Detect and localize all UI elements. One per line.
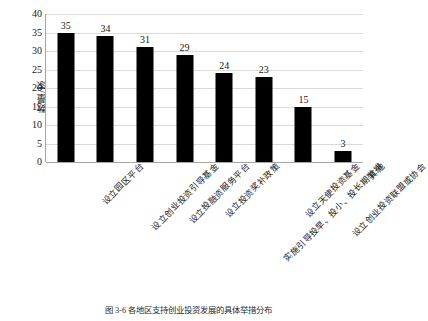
y-tick-label-30: 30 [32, 46, 42, 56]
chart-plot-area: 数量/家 40 35 30 25 20 15 10 5 0 [34, 10, 364, 175]
bar-value-label: 23 [259, 65, 269, 75]
bar-slot: 24 [204, 14, 244, 162]
bar-slot: 23 [244, 14, 284, 162]
bar[interactable] [136, 47, 153, 162]
bar[interactable] [334, 151, 351, 162]
bar-value-label: 29 [180, 43, 190, 53]
y-tick-label-20: 20 [32, 83, 42, 93]
bar-value-label: 34 [100, 24, 110, 34]
bar-value-label: 15 [298, 95, 308, 105]
bar-value-label: 31 [140, 35, 150, 45]
bar-slot: 29 [165, 14, 205, 162]
figure-caption: 图 3-6 各地区支持创业投资发展的具体举措分布 [0, 306, 377, 316]
y-tick-label-10: 10 [32, 120, 42, 130]
bar-slot: 15 [284, 14, 324, 162]
y-tick-label-15: 15 [32, 102, 42, 112]
bar[interactable] [255, 77, 272, 162]
bar-value-label: 35 [61, 21, 71, 31]
y-tick-label-35: 35 [32, 28, 42, 38]
bar[interactable] [295, 107, 312, 163]
y-tick-label-5: 5 [37, 139, 42, 149]
y-tick-label-0: 0 [37, 157, 42, 167]
y-tick-label-25: 25 [32, 65, 42, 75]
gridline-0-axis [46, 162, 363, 163]
bar[interactable] [216, 73, 233, 162]
bar-value-label: 3 [340, 139, 345, 149]
bar[interactable] [97, 36, 114, 162]
bar-value-label: 24 [219, 61, 229, 71]
bar[interactable] [57, 33, 74, 163]
y-tick-label-40: 40 [32, 9, 42, 19]
x-axis-label: 其他 [367, 162, 386, 181]
bar-slot: 31 [125, 14, 165, 162]
bar-slot: 34 [86, 14, 126, 162]
bar-slot: 35 [46, 14, 86, 162]
bar-slot: 3 [323, 14, 363, 162]
plot-canvas: 40 35 30 25 20 15 10 5 0 35 [45, 14, 363, 162]
bar[interactable] [176, 55, 193, 162]
bar-series: 35 34 31 29 24 [46, 14, 363, 162]
